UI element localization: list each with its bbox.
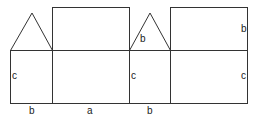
label-left-square-side: c — [12, 70, 17, 81]
middle-lower-rect — [53, 51, 130, 104]
label-right-upper-side: b — [241, 23, 247, 34]
prism-net-diagram: c b a c b b b c — [0, 0, 253, 121]
left-triangle — [11, 13, 53, 51]
label-right-lower-side: c — [241, 70, 246, 81]
label-middle-rect-bottom: a — [87, 105, 93, 116]
right-lower-rect — [171, 51, 248, 104]
middle-upper-rect — [53, 8, 130, 51]
label-left-square-bottom: b — [29, 105, 35, 116]
label-second-square-bottom: b — [147, 105, 153, 116]
right-upper-rect — [171, 8, 248, 51]
label-second-square-side: c — [131, 70, 136, 81]
label-triangle-side: b — [140, 33, 146, 44]
second-triangle — [130, 13, 171, 51]
